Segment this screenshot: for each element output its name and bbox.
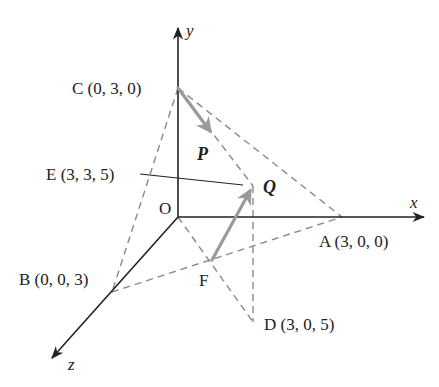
- point-label-C: C (0, 3, 0): [72, 79, 141, 98]
- point-label-F: F: [199, 271, 208, 290]
- vector-P-arrow: [178, 88, 210, 131]
- line-OD: [178, 217, 253, 322]
- vector-label-P: P: [196, 144, 209, 164]
- x-axis-label: x: [409, 193, 418, 212]
- vector-label-Q: Q: [263, 177, 276, 197]
- z-axis-label: z: [67, 355, 75, 374]
- vectors: [178, 88, 250, 260]
- 3d-coordinate-diagram: y x z C (0, 3, 0) E (3, 3, 5) O A (3, 0,…: [0, 0, 439, 387]
- point-label-B: B (0, 0, 3): [19, 270, 88, 289]
- line-BA: [112, 217, 342, 292]
- point-label-D: D (3, 0, 5): [264, 315, 334, 334]
- point-label-O: O: [159, 199, 171, 218]
- axes: [52, 28, 424, 358]
- vector-Q-arrow: [212, 191, 250, 260]
- y-axis-label: y: [184, 21, 194, 40]
- dashed-lines: [112, 88, 342, 322]
- line-CB: [112, 88, 178, 292]
- point-label-E: E (3, 3, 5): [46, 165, 114, 184]
- point-label-A: A (3, 0, 0): [319, 232, 388, 251]
- leader-line-E: [140, 174, 243, 185]
